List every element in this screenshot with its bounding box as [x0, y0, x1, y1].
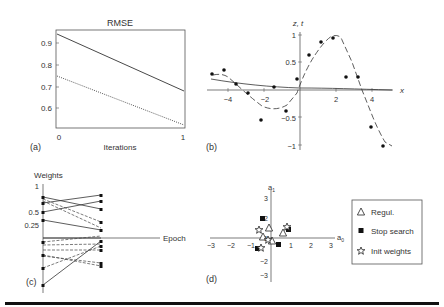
panel-a-frame	[56, 30, 185, 128]
panel-a-xtick: 0	[57, 133, 62, 142]
panel-a-title: RMSE	[107, 18, 133, 28]
panel-b-xtick: 2	[334, 95, 338, 104]
panel-c-label: (c)	[26, 277, 37, 287]
panel-a-ytick: 0.6	[41, 104, 53, 113]
panel-a-xtick: 1	[181, 133, 186, 142]
panel-b-ytick: −1	[287, 142, 296, 151]
panel-b-ytick: 0.5	[286, 58, 296, 67]
panel-c-ytick: 0.25	[24, 221, 39, 230]
panel-d-xtick: 2	[309, 242, 313, 249]
panel-d-xtick: −2	[227, 242, 235, 249]
panel-b-label: (b)	[206, 142, 217, 152]
model-curve	[211, 79, 392, 90]
bottom-rule	[5, 302, 439, 305]
panel-d-xtick: 1	[289, 242, 293, 249]
panel-d-scatter: a1 a0 −3 −2 −1 1 2 3 3 2 1 −2 −3	[206, 183, 422, 284]
legend-square-icon	[359, 228, 364, 233]
legend-stop-search: Stop search	[371, 227, 414, 236]
panel-b-xtick: −4	[224, 95, 233, 104]
panel-b-function-plot: z, t x −4 −2 2 4 1 0.5 −0.5 −1 (b)	[206, 19, 405, 152]
panel-a-rmse-chart: RMSE 0.9 0.8 0.7 0.6 0 1 Iterations (a)	[30, 18, 186, 152]
legend-init-weights: Init weights	[371, 247, 411, 256]
weight-markers	[42, 194, 103, 287]
panel-b-xlabel: x	[399, 86, 405, 95]
panel-b-ylabel: z, t	[292, 19, 304, 28]
panel-a-ytick: 0.7	[41, 83, 53, 92]
panel-d-ylabel: a1	[268, 183, 275, 193]
panel-c-weights-chart: Weights Epoch 1 0.5 0.25	[24, 171, 185, 293]
panel-b-xtick: 4	[370, 95, 374, 104]
weight-lines-dashed	[43, 199, 101, 268]
legend-regul: Regul.	[371, 208, 394, 217]
rmse-dotted-line	[57, 76, 184, 125]
weight-lines-solid	[43, 195, 101, 285]
panel-d-ytick: −2	[260, 258, 268, 265]
panel-c-xlabel: Epoch	[163, 234, 186, 243]
panel-b-ytick: 1	[292, 31, 296, 40]
panel-d-xtick: 3	[329, 242, 333, 249]
panel-d-ytick: −3	[260, 272, 268, 279]
panel-a-xlabel: Iterations	[104, 143, 137, 152]
panel-d-ytick: 3	[264, 195, 268, 202]
panel-d-xtick: −3	[207, 242, 215, 249]
panel-a-ytick: 0.8	[41, 61, 53, 70]
panel-b-xtick: −2	[261, 95, 270, 104]
panel-d-label: (d)	[206, 274, 217, 284]
figure: RMSE 0.9 0.8 0.7 0.6 0 1 Iterations (a) …	[0, 0, 444, 307]
target-curve	[213, 36, 392, 147]
panel-c-ylabel: Weights	[34, 171, 63, 180]
panel-c-ytick: 0.5	[29, 208, 39, 217]
panel-a-ytick: 0.9	[41, 39, 53, 48]
rmse-solid-line	[57, 34, 184, 91]
panel-d-xlabel: a0	[337, 233, 344, 243]
panel-b-ytick: −0.5	[281, 114, 296, 123]
panel-a-label: (a)	[30, 142, 41, 152]
panel-c-ytick: 1	[35, 182, 39, 191]
panel-d-legend: Regul. Stop search Init weights	[352, 200, 422, 264]
panel-d-xtick: −1	[247, 242, 255, 249]
